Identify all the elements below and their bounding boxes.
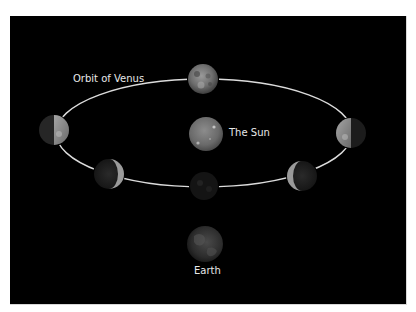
earth (187, 226, 223, 262)
sun (189, 117, 223, 151)
earth-label: Earth (194, 265, 221, 276)
venus-lower-right-crescent (286, 160, 318, 192)
venus-top-full (187, 63, 219, 95)
sun-label: The Sun (229, 127, 270, 138)
venus-right-half (335, 117, 367, 149)
venus-left-half (38, 114, 70, 146)
venus-bottom-new (189, 171, 219, 201)
venus-lower-left-crescent (93, 158, 125, 190)
orbit-label: Orbit of Venus (73, 73, 144, 84)
